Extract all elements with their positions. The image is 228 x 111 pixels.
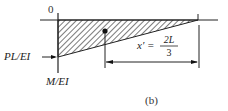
origin-label: 0 (48, 4, 54, 15)
axis-label-m-ei: M/EI (46, 76, 69, 87)
arrowhead-left-icon (106, 60, 113, 64)
pl-ei-label: PL/EI (4, 51, 30, 62)
distance-numerator: 2L (160, 35, 178, 45)
distance-denominator: 3 (160, 48, 178, 58)
distance-label: x′ = (137, 40, 154, 51)
figure-caption: (b) (145, 95, 158, 106)
moment-diagram (0, 0, 228, 111)
centroid-dot (102, 28, 107, 33)
pointer-arrowhead-icon (51, 55, 57, 59)
arrowhead-right-icon (191, 60, 198, 64)
